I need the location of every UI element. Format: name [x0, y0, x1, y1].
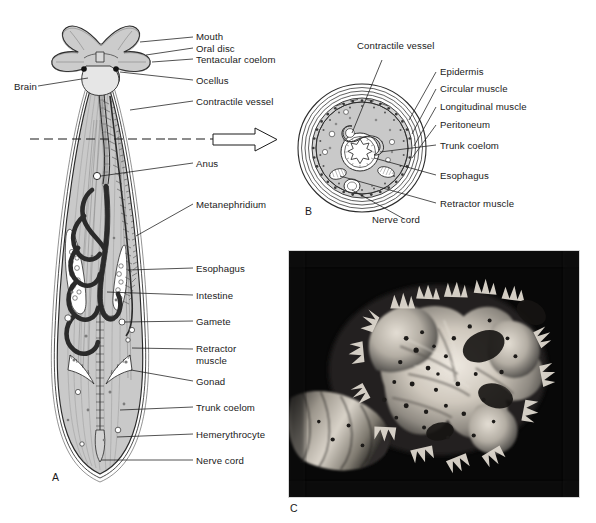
- mouth-opening: [96, 52, 104, 62]
- label-epidermis: Epidermis: [440, 66, 484, 78]
- ocellus-right: [113, 66, 119, 72]
- label-peritoneum: Peritoneum: [440, 119, 490, 131]
- figure-panel-container: Mouth Oral disc Tentacular coelom Brain …: [0, 0, 596, 523]
- label-nerve-cord-b: Nerve cord: [372, 214, 420, 226]
- label-metanephridium: Metanephridium: [196, 199, 266, 211]
- label-gamete: Gamete: [196, 316, 231, 328]
- label-anus: Anus: [196, 158, 218, 170]
- section-plane-indicator: [30, 128, 277, 151]
- label-contractile-vessel-b: Contractile vessel: [357, 40, 435, 52]
- panel-letter-c: C: [290, 502, 298, 514]
- label-circular-muscle: Circular muscle: [440, 83, 508, 95]
- panel-letter-a: A: [52, 471, 59, 483]
- label-brain: Brain: [14, 81, 37, 93]
- label-ocellus: Ocellus: [196, 75, 229, 87]
- brain-ganglion: [82, 66, 119, 95]
- lophophore-photo-art: [289, 251, 579, 497]
- label-contractile-vessel-a: Contractile vessel: [196, 96, 274, 108]
- label-nerve-cord-a: Nerve cord: [196, 455, 244, 467]
- panel-a-drawing: [51, 26, 150, 482]
- label-esophagus-a: Esophagus: [196, 263, 245, 275]
- anus-opening: [93, 172, 100, 179]
- label-trunk-coelom-b: Trunk coelom: [440, 140, 499, 152]
- label-retractor-muscle-b: Retractor muscle: [440, 198, 514, 210]
- label-intestine: Intestine: [196, 290, 233, 302]
- ocellus-left: [81, 66, 87, 72]
- label-longitudinal-muscle: Longitudinal muscle: [440, 101, 527, 113]
- panel-b-drawing: [298, 84, 426, 212]
- panel-c-photograph: [288, 250, 580, 498]
- label-oral-disc: Oral disc: [196, 43, 235, 55]
- label-hemerythrocyte: Hemerythrocyte: [196, 429, 265, 441]
- label-esophagus-b: Esophagus: [440, 170, 489, 182]
- label-mouth: Mouth: [196, 31, 223, 43]
- label-tentacular-coelom: Tentacular coelom: [196, 54, 276, 66]
- panel-letter-b: B: [305, 205, 312, 217]
- label-retractor-muscle-a: Retractor muscle: [196, 343, 260, 366]
- section-arrow: [213, 128, 277, 151]
- label-gonad: Gonad: [196, 376, 225, 388]
- label-trunk-coelom-a: Trunk coelom: [196, 402, 255, 414]
